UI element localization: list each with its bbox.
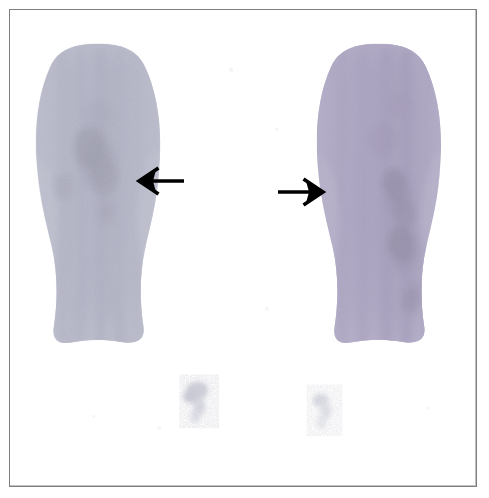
figure-root [0, 0, 489, 498]
faint-focus-left [179, 374, 219, 428]
scintigram-canvas [10, 10, 476, 486]
annotation-arrow-left-icon [136, 164, 186, 198]
scan-image-frame [9, 9, 477, 487]
annotation-arrow-right-icon [276, 175, 326, 209]
faint-focus-right [307, 384, 343, 436]
